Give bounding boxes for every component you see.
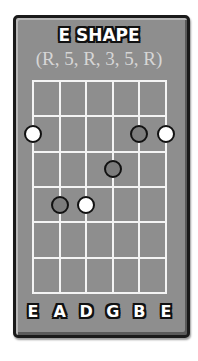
string-name-label: B [129, 302, 149, 321]
root-note-dot [24, 125, 42, 143]
fret-line [32, 151, 167, 153]
chord-tone-dot [51, 196, 69, 214]
chord-tone-dot [104, 160, 122, 178]
string-name-label: E [23, 302, 43, 321]
root-note-dot [157, 125, 175, 143]
root-note-dot [77, 196, 95, 214]
interval-formula: (R, 5, R, 3, 5, R) [0, 48, 198, 70]
fret-line [32, 186, 167, 188]
chord-tone-dot [130, 125, 148, 143]
fret-line [32, 292, 167, 294]
fret-line [32, 221, 167, 223]
fretboard-grid [33, 81, 166, 293]
fret-line [32, 257, 167, 259]
string-name-label: A [50, 302, 70, 321]
string-name-label: E [156, 302, 176, 321]
string-name-label: D [76, 302, 96, 321]
string-name-label: G [103, 302, 123, 321]
fret-line [32, 80, 167, 82]
fret-line [32, 115, 167, 117]
shape-title: E SHAPE [0, 25, 198, 45]
